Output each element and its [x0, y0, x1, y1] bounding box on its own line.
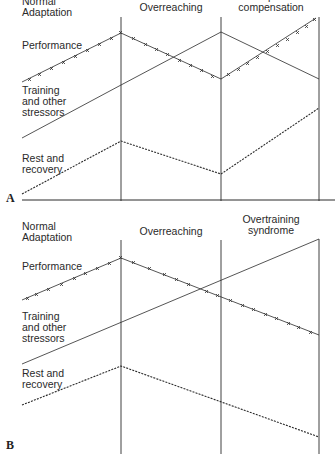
- phase-label-line: syndrome: [226, 225, 316, 236]
- phase-label-line: Overreaching: [126, 226, 216, 237]
- panel-a-letter: A: [6, 191, 15, 206]
- panel-b-training-line: [22, 239, 319, 364]
- curve-label-line: recovery: [22, 164, 64, 175]
- panel-b-rest-label: Rest and recovery: [22, 368, 64, 390]
- phase-label-line: Adaptation: [22, 7, 72, 18]
- panel-a-phase-overreaching: Overreaching: [126, 2, 216, 13]
- curve-label-line: stressors: [22, 333, 66, 344]
- panel-b-phase-overtraining: Overtraining syndrome: [226, 214, 316, 236]
- panel-b-letter: B: [6, 438, 14, 453]
- panel-a-training-label: Training and other stressors: [22, 85, 66, 118]
- curve-label-line: stressors: [22, 107, 66, 118]
- phase-label-line: Overreaching: [126, 2, 216, 13]
- curve-label-line: recovery: [22, 379, 64, 390]
- phase-label-line: Adaptation: [22, 232, 72, 243]
- panel-b-performance-label: Performance: [22, 261, 82, 272]
- panel-b-rest-line: [22, 366, 319, 437]
- panel-a-performance-label: Performance: [22, 40, 82, 51]
- panel-b-phase-overreaching: Overreaching: [126, 226, 216, 237]
- panel-a-rest-label: Rest and recovery: [22, 153, 64, 175]
- phase-label-line: compensation: [226, 2, 316, 13]
- panel-a-phase-supercompensation: Super- compensation: [226, 0, 316, 13]
- panel-a-phase-normal: Normal Adaptation: [22, 0, 72, 18]
- panel-b-phase-normal: Normal Adaptation: [22, 221, 72, 243]
- panel-a-rest-line: [22, 108, 319, 194]
- panel-b-training-label: Training and other stressors: [22, 311, 66, 344]
